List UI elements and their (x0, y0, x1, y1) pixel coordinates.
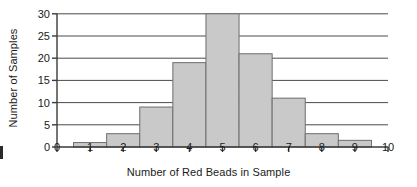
x-tick-label-10: 10 (377, 141, 399, 153)
scan-edge-artifact (0, 146, 3, 159)
bar-6 (239, 54, 272, 147)
y-axis-ticks (52, 14, 57, 147)
y-tick-label-10: 10 (26, 97, 50, 109)
y-tick-label-5: 5 (26, 119, 50, 131)
y-tick-label-30: 30 (26, 8, 50, 20)
x-tick-label-9: 9 (344, 141, 366, 153)
x-tick-label-2: 2 (112, 141, 134, 153)
y-tick-label-15: 15 (26, 74, 50, 86)
y-tick-label-20: 20 (26, 52, 50, 64)
x-axis-title: Number of Red Beads in Sample (0, 166, 417, 178)
x-tick-label-8: 8 (311, 141, 333, 153)
plot-area (0, 0, 417, 187)
x-tick-label-5: 5 (212, 141, 234, 153)
x-tick-label-0: 0 (46, 141, 68, 153)
x-tick-label-7: 7 (278, 141, 300, 153)
x-tick-label-6: 6 (245, 141, 267, 153)
y-axis-tick-labels: 0 5 10 15 20 25 30 (22, 0, 50, 187)
y-tick-label-25: 25 (26, 30, 50, 42)
histogram-figure: Number of Samples 0 5 10 15 20 25 30 (0, 0, 417, 187)
x-tick-label-4: 4 (178, 141, 200, 153)
y-axis-title: Number of Samples (4, 8, 22, 148)
x-tick-label-3: 3 (145, 141, 167, 153)
x-tick-label-1: 1 (79, 141, 101, 153)
bar-5 (206, 14, 239, 147)
y-axis-title-text: Number of Samples (7, 29, 19, 128)
bar-4 (173, 63, 206, 147)
bar-7 (272, 98, 305, 147)
